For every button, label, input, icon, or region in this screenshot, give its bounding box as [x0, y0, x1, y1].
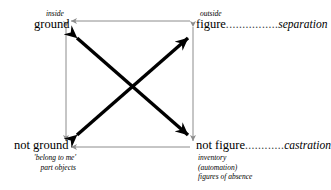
- node-figure: outside figure ................ separati…: [196, 9, 327, 31]
- node-figure-dot-leader: ................: [226, 18, 278, 31]
- node-not-figure-term: not figure: [196, 139, 245, 152]
- node-ground: inside ground: [34, 9, 69, 31]
- relation-label-castration: castration: [284, 139, 331, 152]
- relation-label-separation: separation: [278, 18, 327, 31]
- node-not-ground-gloss: 'belong to me' part objects: [14, 152, 76, 172]
- node-ground-term: ground: [34, 18, 69, 31]
- node-not-ground-term: not ground: [14, 139, 76, 152]
- gloss-line: 'belong to me': [14, 153, 76, 163]
- gloss-line: inventory: [198, 153, 331, 163]
- gloss-line: figures of absence: [198, 172, 331, 182]
- node-figure-term: figure: [196, 18, 226, 31]
- node-not-figure-gloss: inventory (automation) figures of absenc…: [196, 152, 331, 182]
- node-not-figure-dot-leader: ............: [245, 139, 284, 152]
- node-not-figure: not figure ............ castration inven…: [196, 139, 331, 182]
- node-not-figure-row: not figure ............ castration: [196, 139, 331, 152]
- node-not-ground: not ground 'belong to me' part objects: [14, 139, 76, 172]
- gloss-line: part objects: [14, 163, 76, 173]
- gloss-line: (automation): [198, 163, 331, 173]
- node-figure-row: figure ................ separation: [196, 18, 327, 31]
